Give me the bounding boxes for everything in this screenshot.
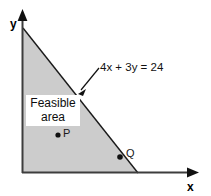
point-q-label: Q	[126, 148, 135, 159]
equation-callout-line	[81, 68, 99, 90]
y-axis-label: y	[10, 18, 17, 30]
point-p-label: P	[63, 128, 70, 139]
constraint-equation-label: 4x + 3y = 24	[100, 62, 163, 74]
point-q-marker	[117, 154, 123, 160]
x-axis-label: x	[187, 181, 194, 193]
x-axis-arrowhead	[187, 168, 199, 178]
point-p-marker	[55, 132, 60, 137]
feasible-area-label-line2: area	[26, 110, 80, 124]
y-axis-arrowhead	[18, 9, 28, 21]
feasible-region-figure: y x 4x + 3y = 24 Feasible area P Q	[0, 0, 211, 196]
feasible-area-label: Feasible area	[26, 95, 80, 126]
feasible-area-label-line1: Feasible	[26, 96, 80, 110]
